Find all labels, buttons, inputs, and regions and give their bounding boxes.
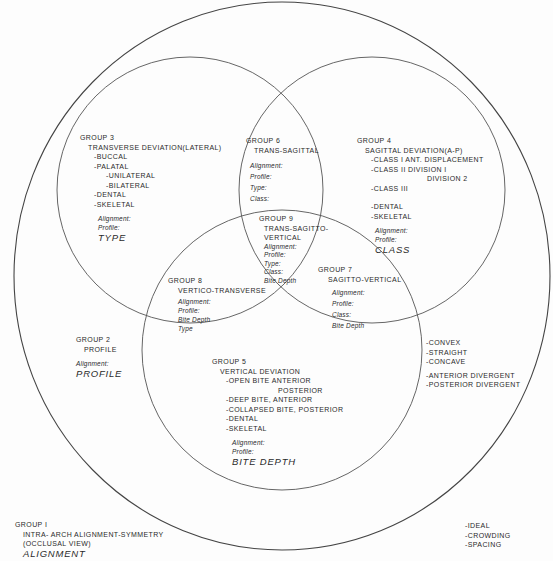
- group-7-subtitle: SAGITTO-VERTICAL: [318, 275, 401, 285]
- field-label: Alignment:: [212, 438, 343, 447]
- field-label: Profile:: [357, 235, 484, 244]
- field-label: Type: [168, 324, 266, 333]
- group-7-block: GROUP 7 SAGITTO-VERTICAL Alignment: Prof…: [318, 265, 401, 331]
- field-label: Profile:: [80, 223, 221, 232]
- venn-diagram: GROUP 3 TRANSVERSE DEVIATION(LATERAL) -B…: [0, 0, 553, 561]
- list-item: -DENTAL: [357, 202, 484, 212]
- field-label: Profile:: [212, 447, 343, 456]
- list-item: -SKELETAL: [80, 200, 221, 210]
- field-label: Profile:: [318, 298, 401, 309]
- list-item: POSTERIOR: [212, 386, 343, 396]
- group-1-line-1: INTRA- ARCH ALIGNMENT-SYMMETRY: [15, 530, 164, 540]
- field-label: Type:: [246, 182, 319, 193]
- group-5-label: BITE DEPTH: [212, 456, 343, 468]
- profile-options-list: -CONVEX -STRAIGHT -CONCAVE -ANTERIOR DIV…: [426, 338, 520, 390]
- group-6-subtitle: TRANS-SAGITTAL: [246, 146, 319, 156]
- field-label: Profile:: [259, 251, 329, 260]
- group-2-subtitle: PROFILE: [76, 345, 122, 355]
- list-item: -OPEN BITE ANTERIOR: [212, 376, 343, 386]
- list-item: -SPACING: [465, 540, 511, 550]
- group-1-title: GROUP I: [15, 520, 164, 530]
- list-item: -BUCCAL: [80, 152, 221, 162]
- group-4-label: CLASS: [357, 244, 484, 256]
- group-1-block: GROUP I INTRA- ARCH ALIGNMENT-SYMMETRY (…: [15, 520, 164, 559]
- list-item: -CROWDING: [465, 531, 511, 541]
- list-item: -CLASS II DIVISION I: [357, 165, 484, 175]
- group-3-title: GROUP 3: [80, 133, 221, 143]
- group-2-label: PROFILE: [76, 368, 122, 380]
- group-5-block: GROUP 5 VERTICAL DEVIATION -OPEN BITE AN…: [212, 357, 343, 468]
- group-4-block: GROUP 4 SAGITTAL DEVIATION(A-P) -CLASS I…: [357, 136, 484, 256]
- group-9-subtitle-line-2: VERTICAL: [259, 233, 329, 243]
- list-item: -POSTERIOR DIVERGENT: [426, 380, 520, 390]
- list-item: -STRAIGHT: [426, 348, 520, 358]
- list-item: -DENTAL: [80, 190, 221, 200]
- group-9-subtitle-line-1: TRANS-SAGITTO-: [259, 224, 329, 234]
- list-item: -COLLAPSED BITE, POSTERIOR: [212, 405, 343, 415]
- field-label: Alignment:: [168, 297, 266, 306]
- list-item: -ANTERIOR DIVERGENT: [426, 371, 520, 381]
- list-item: -SKELETAL: [212, 424, 343, 434]
- list-item: -CONVEX: [426, 338, 520, 348]
- list-item: DIVISION 2: [357, 174, 484, 184]
- field-label: Class:: [318, 309, 401, 320]
- alignment-options-list: -IDEAL -CROWDING -SPACING: [465, 521, 511, 550]
- list-item: -DEEP BITE, ANTERIOR: [212, 395, 343, 405]
- field-label: Profile:: [246, 171, 319, 182]
- group-5-subtitle: VERTICAL DEVIATION: [212, 367, 343, 377]
- field-label: Alignment:: [246, 160, 319, 171]
- group-3-label: TYPE: [80, 232, 221, 244]
- field-label: Bite Depth: [318, 320, 401, 331]
- list-item: -DENTAL: [212, 414, 343, 424]
- list-item: -CLASS III: [357, 184, 484, 194]
- field-label: Alignment:: [318, 287, 401, 298]
- field-label: Bite Depth: [168, 315, 266, 324]
- group-7-title: GROUP 7: [318, 265, 401, 275]
- group-4-title: GROUP 4: [357, 136, 484, 146]
- group-5-title: GROUP 5: [212, 357, 343, 367]
- list-item: -CONCAVE: [426, 357, 520, 367]
- group-3-subtitle: TRANSVERSE DEVIATION(LATERAL): [80, 143, 221, 153]
- group-6-title: GROUP 6: [246, 136, 319, 146]
- list-item: -UNILATERAL: [80, 171, 221, 181]
- list-item: -SKELETAL: [357, 212, 484, 222]
- list-item: -PALATAL: [80, 162, 221, 172]
- group-4-subtitle: SAGITTAL DEVIATION(A-P): [357, 146, 484, 156]
- field-label: Alignment:: [357, 226, 484, 235]
- group-8-block: GROUP 8 VERTICO-TRANSVERSE Alignment: Pr…: [168, 276, 266, 333]
- field-label: Alignment:: [76, 359, 122, 368]
- list-item: -CLASS I ANT. DISPLACEMENT: [357, 155, 484, 165]
- field-label: Alignment:: [259, 243, 329, 252]
- group-6-block: GROUP 6 TRANS-SAGITTAL Alignment: Profil…: [246, 136, 319, 204]
- group-8-subtitle: VERTICO-TRANSVERSE: [168, 286, 266, 296]
- group-8-title: GROUP 8: [168, 276, 266, 286]
- group-2-block: GROUP 2 PROFILE Alignment: PROFILE: [76, 335, 122, 380]
- field-label: Profile:: [168, 306, 266, 315]
- field-label: Alignment:: [80, 214, 221, 223]
- group-1-label: ALIGNMENT: [15, 549, 164, 559]
- list-item: -IDEAL: [465, 521, 511, 531]
- field-label: Class:: [246, 193, 319, 204]
- group-2-title: GROUP 2: [76, 335, 122, 345]
- group-3-block: GROUP 3 TRANSVERSE DEVIATION(LATERAL) -B…: [80, 133, 221, 244]
- group-9-title: GROUP 9: [259, 214, 329, 224]
- list-item: -BILATERAL: [80, 181, 221, 191]
